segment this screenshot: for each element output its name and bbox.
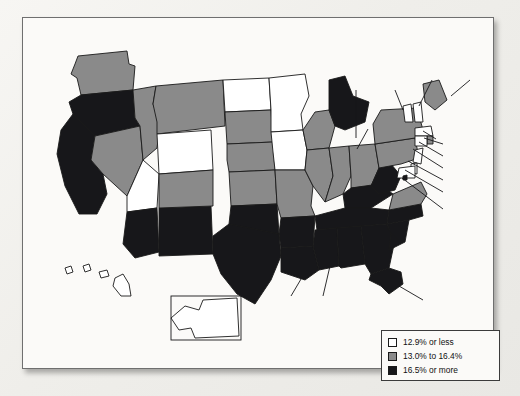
page-root: 12.9% or less 13.0% to 16.4% 16.5% or mo… [0, 0, 520, 396]
leader-line-fl [399, 286, 423, 300]
state-mt [153, 80, 225, 134]
legend-label-low: 12.9% or less [403, 338, 454, 346]
state-ia [271, 130, 307, 170]
legend-label-mid: 13.0% to 16.4% [403, 352, 462, 360]
state-wi [303, 110, 335, 150]
us-choropleth-map [23, 18, 492, 367]
state-nm [159, 206, 213, 256]
legend-label-high: 16.5% or more [403, 366, 458, 374]
legend-swatch-high [388, 366, 397, 375]
leader-line-me [451, 80, 470, 96]
legend-item-low: 12.9% or less [388, 336, 493, 349]
state-ks [229, 170, 277, 206]
state-ma [415, 126, 433, 136]
state-az [123, 208, 159, 258]
legend-swatch-low [388, 338, 397, 347]
state-ct [415, 136, 427, 146]
state-sd [225, 110, 273, 144]
legend: 12.9% or less 13.0% to 16.4% 16.5% or mo… [381, 330, 500, 381]
legend-item-high: 16.5% or more [388, 364, 493, 377]
state-ak [171, 298, 239, 338]
leader-line-ms [323, 266, 330, 296]
state-vt [403, 104, 413, 122]
state-tx [213, 224, 281, 304]
state-mn [269, 74, 309, 132]
state-mi [329, 76, 369, 130]
legend-item-mid: 13.0% to 16.4% [388, 350, 493, 363]
state-co [159, 170, 213, 208]
state-wy [157, 130, 213, 174]
state-nd [223, 78, 271, 112]
state-hi [65, 264, 131, 296]
leader-line-vt [395, 90, 403, 110]
state-al [337, 226, 365, 268]
map-frame: 12.9% or less 13.0% to 16.4% 16.5% or mo… [22, 17, 494, 369]
state-nh [413, 102, 423, 122]
state-ne [227, 142, 275, 172]
legend-swatch-mid [388, 352, 397, 361]
state-me [423, 80, 447, 110]
state-wa [71, 51, 135, 95]
state-la [281, 246, 319, 280]
state-ar [279, 216, 315, 248]
state-shape-layer [57, 51, 447, 340]
